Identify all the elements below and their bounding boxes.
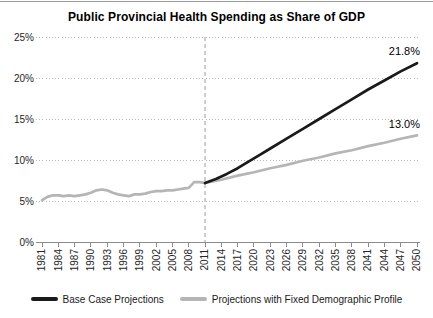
legend-line-swatch-fixed-demographic (180, 297, 207, 301)
x-tick-label: 2020 (248, 249, 259, 272)
x-tick-label: 2044 (379, 249, 390, 272)
x-tick-label: 2017 (232, 249, 243, 272)
x-tick-label: 2002 (151, 249, 162, 272)
legend-label-fixed-demographic: Projections with Fixed Demographic Profi… (212, 294, 403, 305)
x-tick-label: 2011 (199, 249, 210, 271)
legend-label-base-case: Base Case Projections (63, 294, 164, 305)
x-tick-label: 2008 (183, 249, 194, 272)
x-tick-label: 1999 (134, 249, 145, 272)
x-tick-label: 1981 (36, 249, 47, 272)
y-tick-label: 25% (14, 32, 34, 43)
x-tick-label: 2047 (395, 249, 406, 272)
x-tick-label: 2029 (297, 249, 308, 272)
x-tick-label: 2035 (330, 249, 341, 272)
end-value-label-base-case: 21.8% (389, 45, 420, 57)
y-tick-label: 10% (14, 155, 34, 166)
x-tick-label: 2026 (281, 249, 292, 272)
series-line-base-case (205, 63, 417, 183)
series-line-fixed-demographic (205, 135, 417, 183)
x-tick-label: 2014 (216, 249, 227, 272)
series-line-historical (42, 182, 205, 200)
x-tick-label: 1990 (85, 249, 96, 272)
x-tick-label: 1996 (118, 249, 129, 272)
x-tick-label: 2005 (167, 249, 178, 272)
x-tick-label: 1984 (53, 249, 64, 272)
legend-item-fixed-demographic: Projections with Fixed Demographic Profi… (180, 294, 403, 305)
y-tick-label: 0% (20, 237, 35, 248)
x-tick-label: 2050 (411, 249, 422, 272)
x-tick-label: 2041 (362, 249, 373, 272)
x-tick-label: 1987 (69, 249, 80, 272)
x-tick-label: 2038 (346, 249, 357, 272)
legend-item-base-case: Base Case Projections (31, 294, 164, 305)
chart-legend: Base Case Projections Projections with F… (0, 289, 433, 309)
y-tick-label: 15% (14, 114, 34, 125)
y-tick-label: 5% (20, 196, 35, 207)
y-tick-label: 20% (14, 73, 34, 84)
x-tick-label: 1993 (102, 249, 113, 272)
x-tick-label: 2032 (314, 249, 325, 272)
plot-area: 0%5%10%15%20%25%198119841987199019931996… (0, 0, 433, 318)
end-value-label-fixed-demographic: 13.0% (389, 118, 420, 130)
x-tick-label: 2023 (265, 249, 276, 272)
chart-canvas: Public Provincial Health Spending as Sha… (0, 0, 433, 318)
legend-line-swatch-base-case (31, 297, 58, 301)
